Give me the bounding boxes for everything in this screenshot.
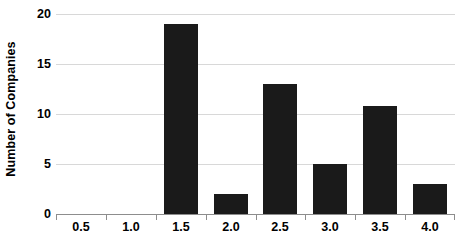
- bars-group: [56, 14, 455, 214]
- y-axis-tick-labels: 05101520: [22, 0, 56, 222]
- x-axis-tick-label: 2.5: [271, 221, 288, 235]
- bar: [413, 184, 447, 214]
- bar: [313, 164, 347, 214]
- x-axis-tick-mark: [56, 214, 57, 220]
- x-axis-tick-mark: [454, 214, 455, 220]
- bar: [363, 106, 397, 214]
- x-axis-tick-mark: [156, 214, 157, 220]
- bar-chart: Number of Companies 05101520 0.51.01.52.…: [0, 0, 468, 245]
- x-axis-tick-mark: [106, 214, 107, 220]
- y-axis-tick-label: 20: [37, 8, 51, 21]
- y-axis-tick-label: 15: [37, 58, 51, 71]
- y-axis-tick-label: 5: [44, 158, 51, 171]
- x-axis-tick-label: 1.5: [172, 221, 189, 235]
- x-axis-tick-label: 4.0: [421, 221, 438, 235]
- x-axis-tick-label: 3.0: [321, 221, 338, 235]
- bar: [164, 24, 198, 214]
- x-axis-tick-label: 1.0: [122, 221, 139, 235]
- x-axis-tick-label: 0.5: [72, 221, 89, 235]
- x-axis-tick-label: 2.0: [222, 221, 239, 235]
- x-axis-tick-mark: [355, 214, 356, 220]
- bar: [263, 84, 297, 214]
- x-axis-tick-mark: [206, 214, 207, 220]
- x-axis-tick-mark: [305, 214, 306, 220]
- x-axis-tick-label: 3.5: [371, 221, 388, 235]
- x-axis-tick-mark: [256, 214, 257, 220]
- x-axis-tick-marks: [56, 214, 455, 220]
- y-axis-title: Number of Companies: [0, 0, 22, 218]
- bar: [214, 194, 248, 214]
- y-axis-tick-label: 10: [37, 108, 51, 121]
- y-axis-title-label: Number of Companies: [4, 41, 18, 176]
- y-axis-tick-label: 0: [44, 208, 51, 221]
- x-axis-tick-mark: [405, 214, 406, 220]
- x-axis-tick-labels: 0.51.01.52.02.53.03.54.0: [56, 221, 455, 241]
- plot-area: [56, 14, 455, 214]
